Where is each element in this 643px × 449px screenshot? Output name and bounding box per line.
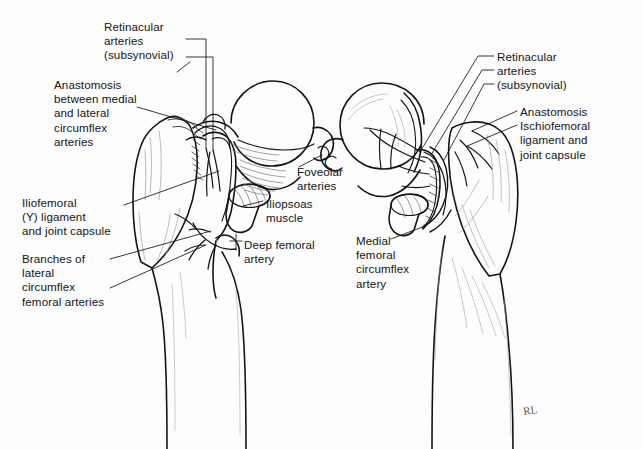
right-shaft-shading (435, 250, 511, 435)
left-foveolar-arteries (313, 127, 333, 160)
right-femur-group (321, 83, 518, 449)
anatomical-figure: Retinacular arteries (subsynovial) Anast… (0, 0, 643, 449)
illustration-canvas (0, 0, 643, 449)
right-psoas-stump (389, 194, 428, 236)
right-shaft-medial-border (432, 236, 445, 449)
left-femoral-head (231, 81, 314, 166)
right-foveolar-arteries (321, 139, 343, 171)
left-joint-capsule-inner (212, 138, 232, 221)
leader-retinacular-left-3 (177, 62, 190, 72)
left-femur-group (133, 81, 333, 449)
right-femoral-neck-inferior (358, 170, 420, 197)
left-head-neck-ridge (238, 140, 314, 150)
right-trochanter-shading (455, 135, 509, 268)
right-greater-trochanter (449, 122, 518, 276)
right-medial-circumflex-artery (424, 147, 451, 232)
right-anastomosis-vessels (455, 131, 499, 186)
leader-iliofemoral (124, 171, 219, 205)
left-shaft-lateral-border (152, 268, 167, 449)
right-head-capsule-margin-inner (401, 100, 416, 173)
right-head-shading (348, 94, 405, 147)
leader-retinacular-left-2 (186, 57, 213, 150)
leader-lines-group (110, 39, 517, 288)
left-shaft-shading (172, 272, 240, 435)
leader-branches-lateral-2 (110, 245, 206, 288)
right-shaft-lateral-border (500, 274, 513, 449)
left-shaft-medial-border (222, 252, 246, 449)
artist-signature: RL (522, 403, 538, 417)
left-retinacular-arteries (206, 148, 220, 196)
left-femoral-neck-inferior (236, 166, 300, 189)
leader-branches-lateral-1 (110, 231, 211, 259)
